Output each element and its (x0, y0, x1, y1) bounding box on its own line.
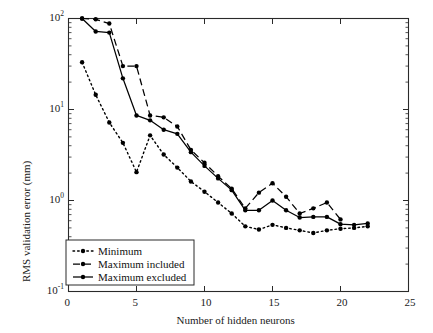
data-point (202, 164, 206, 168)
legend-label-0: Minimum (98, 245, 142, 257)
data-point (107, 30, 111, 34)
data-point (80, 60, 84, 64)
data-point (175, 132, 179, 136)
data-point (338, 222, 342, 226)
data-point (325, 215, 329, 219)
y-tick-label-10: 101 (36, 102, 64, 114)
data-point (311, 215, 315, 219)
data-point (175, 124, 179, 128)
data-series-layer (80, 16, 370, 235)
data-point (338, 226, 342, 230)
data-point (298, 215, 302, 219)
data-point (284, 226, 288, 230)
data-point (134, 64, 138, 68)
legend-marker-1 (81, 262, 85, 266)
data-point (257, 190, 261, 194)
legend-label-2: Maximum excluded (98, 271, 187, 283)
x-tick-label-20: 20 (337, 296, 348, 308)
data-point (148, 133, 152, 137)
data-point (121, 64, 125, 68)
data-point (230, 211, 234, 215)
legend-marker-0 (81, 249, 85, 253)
data-point (189, 150, 193, 154)
data-point (216, 200, 220, 204)
data-point (257, 227, 261, 231)
data-point (148, 118, 152, 122)
data-point (257, 208, 261, 212)
data-point (311, 231, 315, 235)
x-tick-label-10: 10 (201, 296, 212, 308)
data-point (284, 195, 288, 199)
y-axis-title: RMS validation error (mm) (20, 160, 32, 281)
x-tick-label-15: 15 (269, 296, 280, 308)
data-point (216, 176, 220, 180)
data-point (121, 141, 125, 145)
data-point (189, 179, 193, 183)
legend-label-1: Maximum included (98, 258, 185, 270)
data-point (352, 223, 356, 227)
data-point (270, 181, 274, 185)
data-point (162, 115, 166, 119)
series-line-1 (82, 19, 340, 220)
chart-legend: MinimumMaximum includedMaximum excluded (66, 240, 194, 285)
chart-figure: MinimumMaximum includedMaximum excluded … (0, 0, 433, 333)
data-point (325, 200, 329, 204)
data-point (270, 223, 274, 227)
y-tick-label-1: 100 (36, 193, 64, 205)
legend-marker-2 (81, 275, 85, 279)
data-point (134, 170, 138, 174)
data-point (94, 93, 98, 97)
data-point (94, 17, 98, 21)
data-point (107, 21, 111, 25)
data-point (80, 16, 84, 20)
data-point (134, 113, 138, 117)
data-point (298, 211, 302, 215)
x-tick-label-0: 0 (65, 296, 71, 308)
data-point (284, 208, 288, 212)
chart-plot-area: MinimumMaximum includedMaximum excluded (0, 0, 433, 333)
data-point (94, 29, 98, 33)
data-point (107, 120, 111, 124)
series-line-0 (82, 62, 368, 233)
data-point (121, 76, 125, 80)
x-tick-label-5: 5 (133, 296, 139, 308)
data-point (338, 217, 342, 221)
data-point (175, 165, 179, 169)
data-point (325, 228, 329, 232)
data-point (270, 198, 274, 202)
data-point (298, 228, 302, 232)
series-line-2 (82, 19, 368, 225)
data-point (366, 221, 370, 225)
x-axis-title: Number of hidden neurons (177, 314, 295, 326)
y-tick-label-0.1: 10-1 (36, 284, 64, 296)
data-point (311, 206, 315, 210)
data-point (243, 208, 247, 212)
data-point (202, 189, 206, 193)
x-tick-label-25: 25 (405, 296, 416, 308)
data-point (162, 152, 166, 156)
y-tick-label-100: 102 (36, 11, 64, 23)
data-point (230, 188, 234, 192)
data-point (243, 224, 247, 228)
data-point (162, 127, 166, 131)
data-point (148, 113, 152, 117)
